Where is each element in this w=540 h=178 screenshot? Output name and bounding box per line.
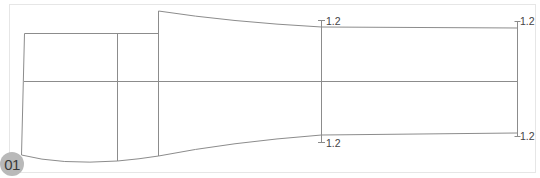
pattern-diagram <box>0 0 540 178</box>
frame <box>10 5 536 173</box>
annotation-mid-bottom: 1.2 <box>326 138 341 149</box>
annotation-right-top: 1.2 <box>520 16 535 27</box>
bottom-hem-curve <box>22 155 159 162</box>
left-edge <box>22 34 25 156</box>
annotation-right-bottom: 1.2 <box>520 131 535 142</box>
figure-number-badge: 01 <box>0 152 24 176</box>
annotation-mid-top: 1.2 <box>326 16 341 27</box>
